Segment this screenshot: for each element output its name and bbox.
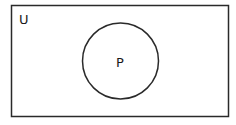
universal-set-label: U: [19, 12, 29, 27]
set-p-label: P: [116, 55, 124, 70]
venn-diagram: U P: [0, 0, 236, 125]
